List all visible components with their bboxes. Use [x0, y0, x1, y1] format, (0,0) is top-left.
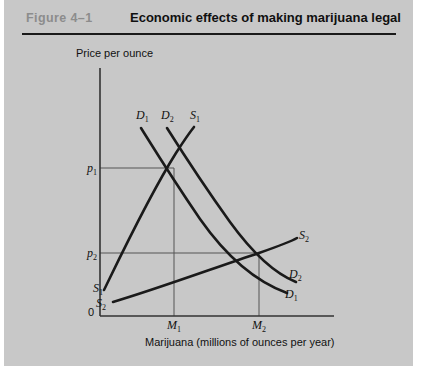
curve-label-d2-right-sub: 2 [298, 274, 302, 283]
curve-label-d1-top-sub: 1 [145, 115, 149, 124]
x-tick-label-m2-sub: 2 [262, 325, 266, 334]
y-axis-label: Price per ounce [76, 47, 153, 59]
x-tick-label-m1-sub: 1 [177, 325, 181, 334]
curve-label-d1-top-text: D [136, 108, 145, 122]
figure-container: Figure 4–1 Economic effects of making ma… [0, 0, 421, 377]
curve-label-s2-right: S2 [299, 228, 309, 244]
curve-label-s1-left: S1 [93, 281, 103, 297]
chart-plot-area: Price per ounce Marijuana (millions of o… [4, 0, 413, 366]
curve-label-s2-left: S2 [96, 296, 106, 312]
y-tick-label-p1: p1 [87, 161, 97, 177]
curve-label-s2-right-sub: 2 [305, 235, 309, 244]
curve-label-d1-right-sub: 1 [294, 294, 298, 303]
curve-d2 [167, 128, 296, 282]
x-axis-label: Marijuana (millions of ounces per year) [145, 336, 335, 348]
y-tick-label-p1-sub: 1 [93, 168, 97, 177]
curve-label-d2-right: D2 [289, 267, 302, 283]
curve-label-s1-top-sub: 1 [196, 115, 200, 124]
curve-label-d1-right: D1 [285, 287, 298, 303]
curve-label-s2-left-sub: 2 [102, 303, 106, 312]
x-tick-label-m1: M1 [167, 318, 181, 334]
x-tick-label-m1-text: M [167, 318, 177, 332]
figure-panel: Figure 4–1 Economic effects of making ma… [4, 0, 413, 366]
curve-label-d2-top: D2 [161, 108, 174, 124]
curve-label-d2-top-sub: 2 [170, 115, 174, 124]
curve-label-d2-top-text: D [161, 108, 170, 122]
curve-label-d1-top: D1 [136, 108, 149, 124]
x-tick-label-m2-text: M [252, 318, 262, 332]
curve-label-d1-right-text: D [285, 287, 294, 301]
origin-label: 0 [88, 306, 94, 318]
y-tick-label-p2: p2 [87, 246, 97, 262]
curve-label-s1-top: S1 [190, 108, 200, 124]
curve-s2 [113, 238, 297, 302]
supply-demand-diagram [4, 0, 413, 366]
x-tick-label-m2: M2 [252, 318, 266, 334]
y-tick-label-p2-sub: 2 [93, 253, 97, 262]
curve-label-d2-right-text: D [289, 267, 298, 281]
